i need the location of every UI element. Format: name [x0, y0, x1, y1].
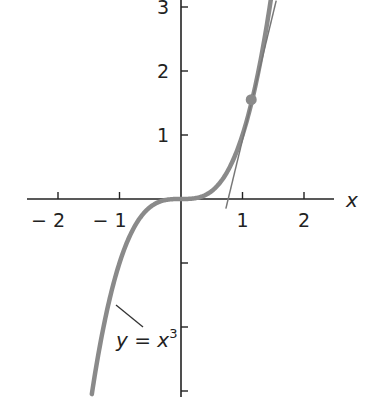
x-tick-label: − 2	[31, 209, 65, 231]
tangency-point	[246, 94, 257, 105]
x-axis-label: x	[345, 188, 358, 212]
chart: − 2− 112321 xy = x3	[0, 0, 387, 397]
x-tick-label: − 1	[92, 209, 126, 231]
curve-label-main: y = x	[115, 328, 169, 352]
curve-label: y = x3	[115, 326, 177, 352]
x-tick-label: 2	[298, 209, 310, 231]
y-tick-label: 2	[157, 60, 169, 82]
curve-label-exponent: 3	[169, 326, 177, 341]
y-tick-label: 1	[157, 124, 169, 146]
annotation-leader-line	[116, 305, 143, 327]
x-tick-label: 1	[236, 209, 248, 231]
y-tick-label: 3	[157, 0, 169, 18]
